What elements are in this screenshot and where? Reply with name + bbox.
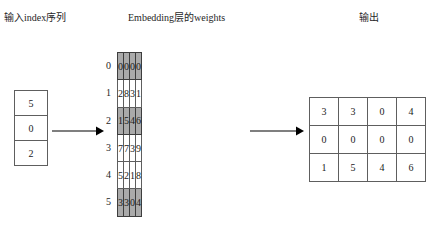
- embedding-matrix-row: 3304: [118, 189, 142, 216]
- embedding-matrix-body: 000028311546773952183304: [118, 53, 142, 217]
- output-matrix-row: 3304: [310, 98, 426, 126]
- embedding-cell: 1: [136, 80, 142, 107]
- heading-output: 输出: [359, 12, 379, 24]
- embedding-row-label: 3: [100, 134, 117, 161]
- output-cell: 0: [397, 126, 426, 154]
- input-index-cell: 0: [15, 116, 48, 141]
- output-cell: 3: [310, 98, 339, 126]
- embedding-matrix-row: 0000: [118, 53, 142, 80]
- embedding-row-label: 1: [100, 79, 117, 106]
- input-index-cell: 5: [15, 91, 48, 116]
- input-index-row: 5: [15, 91, 48, 116]
- embedding-row-label: 4: [100, 161, 117, 188]
- embedding-cell: 8: [136, 162, 142, 189]
- output-cell: 4: [368, 154, 397, 182]
- output-matrix-row: 1546: [310, 154, 426, 182]
- input-index-column: 502: [14, 90, 48, 166]
- embedding-cell-selected: 0: [136, 53, 142, 80]
- heading-input-sequence: 输入index序列: [4, 12, 66, 24]
- output-cell: 0: [310, 126, 339, 154]
- embedding-cell-selected: 6: [136, 107, 142, 134]
- output-cell: 4: [397, 98, 426, 126]
- output-cell: 3: [339, 98, 368, 126]
- input-column-body: 502: [15, 91, 48, 166]
- output-cell: 0: [339, 126, 368, 154]
- arrow-input-to-weights: [52, 124, 106, 138]
- embedding-matrix-row: 5218: [118, 162, 142, 189]
- embedding-cell: 9: [136, 134, 142, 161]
- embedding-matrix-row: 7739: [118, 134, 142, 161]
- input-index-row: 0: [15, 116, 48, 141]
- embedding-row-label: 5: [100, 188, 117, 215]
- input-index-cell: 2: [15, 141, 48, 166]
- embedding-matrix-row: 2831: [118, 80, 142, 107]
- embedding-row-label: 2: [100, 107, 117, 134]
- embedding-row-labels: 012345: [100, 52, 117, 216]
- embedding-weight-matrix: 000028311546773952183304: [117, 52, 142, 217]
- input-index-row: 2: [15, 141, 48, 166]
- output-cell: 0: [368, 126, 397, 154]
- output-matrix-body: 330400001546: [310, 98, 426, 182]
- output-embedding-matrix: 330400001546: [309, 97, 426, 182]
- output-cell: 6: [397, 154, 426, 182]
- embedding-cell-selected: 4: [136, 189, 142, 216]
- embedding-matrix-row: 1546: [118, 107, 142, 134]
- output-matrix-row: 0000: [310, 126, 426, 154]
- heading-embedding-weights: Embedding层的weights: [128, 12, 225, 24]
- embedding-row-label: 0: [100, 52, 117, 79]
- output-cell: 1: [310, 154, 339, 182]
- diagram-canvas: 输入index序列 Embedding层的weights 输出 502 0123…: [0, 0, 446, 235]
- arrow-weights-to-output: [250, 124, 306, 138]
- output-cell: 5: [339, 154, 368, 182]
- output-cell: 0: [368, 98, 397, 126]
